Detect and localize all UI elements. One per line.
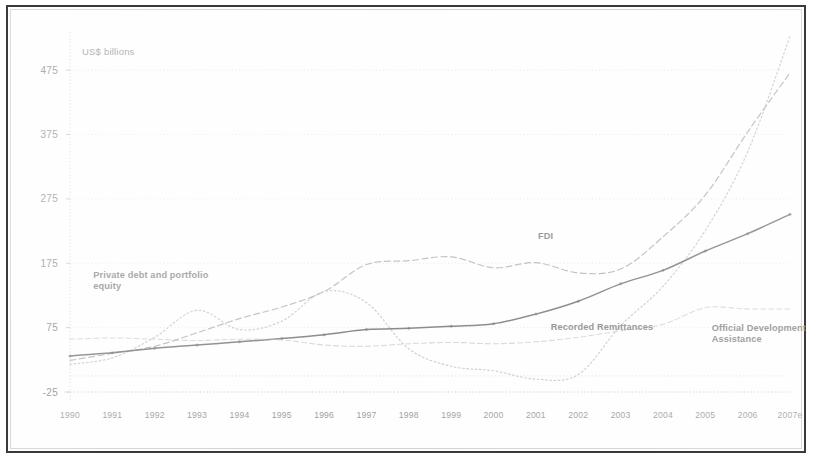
x-tick-label-1996: 1996 <box>314 410 334 420</box>
series-marker <box>450 325 453 328</box>
private-debt-label-line1: Private debt and portfolio <box>93 270 208 280</box>
y-tick-label: 275 <box>40 193 58 204</box>
x-tick-label-1999: 1999 <box>441 410 461 420</box>
y-tick-labels: -2575175275375475 <box>40 65 58 398</box>
series-marker <box>577 300 580 303</box>
series-line-official-development-assistance <box>70 307 790 347</box>
fdi-label: FDI <box>538 231 553 241</box>
y-axis-unit-caption: US$ billions <box>82 46 135 57</box>
series-marker <box>407 327 410 330</box>
series-marker <box>789 213 792 216</box>
series-marker <box>69 354 72 357</box>
series-marker <box>492 322 495 325</box>
series-marker <box>661 269 664 272</box>
series-marker <box>323 333 326 336</box>
x-tick-label-2005: 2005 <box>695 410 715 420</box>
x-tick-label-1998: 1998 <box>399 410 419 420</box>
series-line-private-debt-and-portfolio-equity <box>70 36 790 380</box>
series-line-recorded-remittances <box>70 214 790 356</box>
y-tick-label: 475 <box>40 65 58 76</box>
x-tick-label-2004: 2004 <box>653 410 673 420</box>
y-tick-label: 375 <box>40 129 58 140</box>
series-marker <box>365 328 368 331</box>
series-marker <box>619 282 622 285</box>
oda-label-line2: Assistance <box>712 334 762 344</box>
x-tick-label-2003: 2003 <box>611 410 631 420</box>
series-marker <box>704 250 707 253</box>
y-tick-label: 175 <box>40 258 58 269</box>
oda-label-line1: Official Development <box>712 323 806 333</box>
series-marker <box>153 347 156 350</box>
x-tick-label-2007e: 2007e <box>778 410 803 420</box>
y-tick-marks <box>66 70 70 392</box>
series-marker <box>534 313 537 316</box>
x-tick-label-2000: 2000 <box>484 410 504 420</box>
x-tick-label-2006: 2006 <box>738 410 758 420</box>
x-tick-labels: 1990199119921993199419951996199719981999… <box>60 410 802 420</box>
x-tick-label-1992: 1992 <box>145 410 165 420</box>
capital-flows-line-chart: -2575175275375475 1990199119921993199419… <box>0 0 815 460</box>
series-marker <box>196 344 199 347</box>
x-tick-label-1994: 1994 <box>229 410 249 420</box>
plot-wrapper: -2575175275375475 1990199119921993199419… <box>0 0 815 460</box>
x-tick-label-1995: 1995 <box>272 410 292 420</box>
x-tick-label-1993: 1993 <box>187 410 207 420</box>
y-tick-label: -25 <box>43 387 58 398</box>
y-tick-label: 75 <box>46 322 58 333</box>
remittances-label: Recorded Remittances <box>551 322 654 332</box>
oda-label: Official DevelopmentAssistance <box>712 323 806 344</box>
x-tick-label-1990: 1990 <box>60 410 80 420</box>
x-tick-label-1991: 1991 <box>102 410 122 420</box>
private-debt-label: Private debt and portfolioequity <box>93 270 208 291</box>
series-marker <box>111 351 114 354</box>
series-paths-group <box>69 36 792 380</box>
private-debt-label-line2: equity <box>93 281 122 291</box>
series-line-fdi <box>70 73 790 361</box>
series-marker <box>238 340 241 343</box>
series-marker <box>746 232 749 235</box>
chart-page: -2575175275375475 1990199119921993199419… <box>0 0 815 460</box>
x-tick-label-1997: 1997 <box>357 410 377 420</box>
x-tick-label-2001: 2001 <box>526 410 546 420</box>
gridlines-group <box>70 70 790 392</box>
x-tick-label-2002: 2002 <box>568 410 588 420</box>
